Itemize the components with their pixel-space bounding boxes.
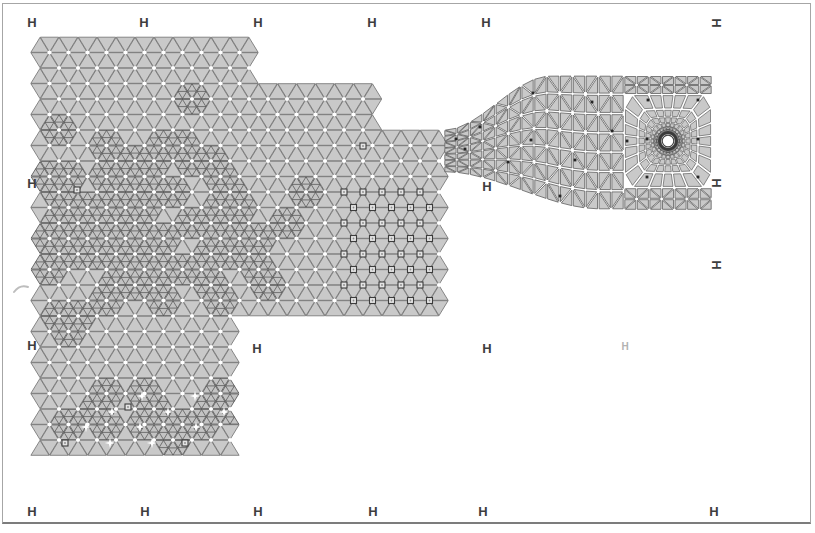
mesh-canvas [0, 0, 815, 533]
structured-mesh [31, 37, 448, 455]
ink-smudge [14, 286, 28, 292]
plot-page: HHHHHHHHHHHHHHHHHHHH [0, 0, 815, 533]
